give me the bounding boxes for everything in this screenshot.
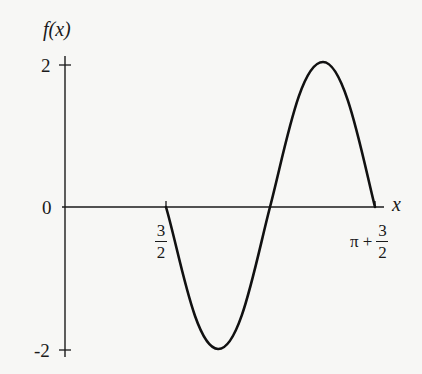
fraction-bar <box>376 241 388 242</box>
x-tick-start-numerator: 3 <box>157 222 166 239</box>
fraction-bar <box>155 241 167 242</box>
y-tick-label-0: 0 <box>42 198 52 217</box>
x-tick-end-denominator: 2 <box>378 244 387 261</box>
x-axis-label: x <box>392 194 401 214</box>
chart-canvas <box>0 0 422 374</box>
x-tick-start-denominator: 2 <box>157 244 166 261</box>
y-tick-label-neg2: -2 <box>34 341 50 360</box>
function-curve <box>166 62 375 349</box>
y-axis-label: f(x) <box>43 19 71 39</box>
y-tick-label-2: 2 <box>41 56 51 75</box>
x-tick-label-start: 3 2 <box>155 222 167 261</box>
x-tick-label-end: π + 3 2 <box>350 222 388 261</box>
x-tick-end-numerator: 3 <box>378 222 387 239</box>
x-tick-end-prefix: π + <box>350 233 372 250</box>
x-tick-end-fraction: 3 2 <box>376 222 388 261</box>
